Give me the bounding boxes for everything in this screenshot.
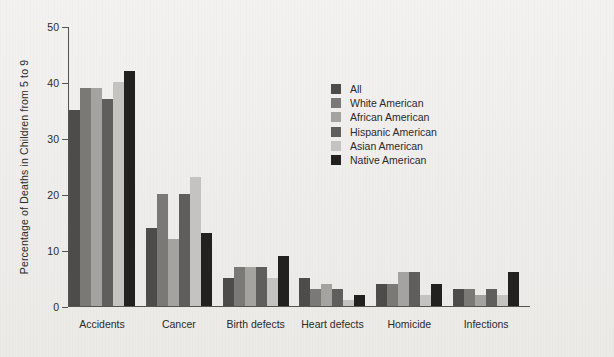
bar	[102, 99, 113, 306]
legend-swatch-icon	[331, 141, 341, 151]
legend-item: White American	[331, 96, 437, 110]
bar	[321, 284, 332, 306]
legend-swatch-icon	[331, 112, 341, 122]
x-axis-line	[68, 306, 530, 307]
legend-label: White American	[350, 97, 424, 109]
bar	[354, 295, 365, 306]
bar	[420, 295, 431, 306]
bar	[453, 289, 464, 306]
bar	[234, 267, 245, 306]
bar	[475, 295, 486, 306]
x-tick-label: Accidents	[79, 318, 125, 330]
y-tick-label: 30	[47, 133, 59, 145]
y-tick-label: 10	[47, 245, 59, 257]
legend-swatch-icon	[331, 98, 341, 108]
chart-legend: AllWhite AmericanAfrican AmericanHispani…	[331, 82, 437, 167]
bar	[343, 300, 354, 306]
legend-swatch-icon	[331, 84, 341, 94]
bar	[157, 194, 168, 306]
bar	[409, 272, 420, 306]
bar	[376, 284, 387, 306]
legend-item: All	[331, 82, 437, 96]
x-tick-mark	[299, 298, 300, 306]
bar	[245, 267, 256, 306]
x-tick-mark	[376, 298, 377, 306]
y-tick-label: 20	[47, 189, 59, 201]
legend-item: Asian American	[331, 139, 437, 153]
y-tick-label: 50	[47, 21, 59, 33]
bar-group: Infections	[453, 27, 530, 306]
legend-label: African American	[350, 111, 429, 123]
bar	[464, 289, 475, 306]
bar	[508, 272, 519, 306]
x-tick-mark	[453, 298, 454, 306]
bar	[332, 289, 343, 306]
bar	[113, 82, 124, 306]
bar	[256, 267, 267, 306]
y-tick-label: 0	[53, 301, 59, 313]
legend-item: Hispanic American	[331, 125, 437, 139]
y-axis-title: Percentage of Deaths in Children from 5 …	[18, 60, 30, 274]
bar	[190, 177, 201, 306]
y-tick-mark	[62, 83, 68, 84]
bar-group: Accidents	[69, 27, 146, 306]
bar	[124, 71, 135, 306]
y-tick-mark	[62, 195, 68, 196]
y-tick-mark	[62, 139, 68, 140]
bar	[80, 88, 91, 306]
y-tick-mark	[62, 27, 68, 28]
bar	[299, 278, 310, 306]
bar	[146, 228, 157, 306]
bar	[91, 88, 102, 306]
bar	[310, 289, 321, 306]
y-tick-mark	[62, 251, 68, 252]
legend-swatch-icon	[331, 127, 341, 137]
legend-item: African American	[331, 110, 437, 124]
legend-label: Native American	[350, 154, 426, 166]
x-tick-label: Cancer	[162, 318, 196, 330]
x-tick-label: Infections	[464, 318, 509, 330]
legend-label: Hispanic American	[350, 126, 437, 138]
legend-label: All	[350, 83, 362, 95]
bar	[267, 278, 278, 306]
y-tick-mark	[62, 307, 68, 308]
bar	[486, 289, 497, 306]
bar-groups: AccidentsCancerBirth defectsHeart defect…	[69, 27, 530, 306]
legend-swatch-icon	[331, 155, 341, 165]
bar-group: Birth defects	[223, 27, 300, 306]
bar	[398, 272, 409, 306]
x-tick-label: Homicide	[387, 318, 431, 330]
bar	[168, 239, 179, 306]
bar	[497, 295, 508, 306]
plot-area: Percentage of Deaths in Children from 5 …	[68, 27, 530, 307]
x-tick-mark	[223, 298, 224, 306]
y-tick: 0	[68, 307, 69, 308]
chart-page: Percentage of Deaths in Children from 5 …	[0, 0, 614, 357]
x-tick-mark	[146, 298, 147, 306]
bar	[278, 256, 289, 306]
bar	[387, 284, 398, 306]
bar	[223, 278, 234, 306]
bar	[69, 110, 80, 306]
bar-group: Cancer	[146, 27, 223, 306]
legend-label: Asian American	[350, 140, 423, 152]
legend-item: Native American	[331, 153, 437, 167]
bar	[179, 194, 190, 306]
y-tick-label: 40	[47, 77, 59, 89]
bar	[431, 284, 442, 306]
x-tick-label: Heart defects	[301, 318, 363, 330]
bar	[201, 233, 212, 306]
x-tick-label: Birth defects	[226, 318, 284, 330]
